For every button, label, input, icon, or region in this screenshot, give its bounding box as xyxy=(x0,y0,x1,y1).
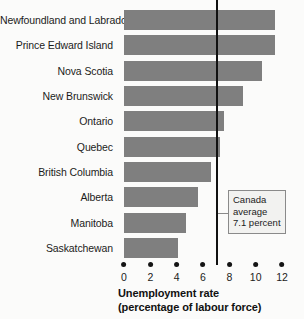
bar xyxy=(124,162,211,182)
tick-dot-icon xyxy=(253,262,258,267)
annotation-line-3: 7.1 percent xyxy=(233,217,281,229)
x-axis-tick: 4 xyxy=(174,262,180,283)
category-label: British Columbia xyxy=(0,162,118,182)
bar xyxy=(124,61,262,81)
x-axis-tick-label: 2 xyxy=(147,271,153,283)
category-label: Alberta xyxy=(0,187,118,207)
canada-average-reference-line xyxy=(216,0,218,265)
unemployment-rate-bar-chart: Newfoundland and Labrador Prince Edward … xyxy=(0,0,304,319)
bar xyxy=(124,187,198,207)
bar-row xyxy=(124,61,282,81)
x-axis-tick-label: 6 xyxy=(200,271,206,283)
bar-row xyxy=(124,86,282,106)
bar-row xyxy=(124,238,282,258)
category-label: Saskatchewan xyxy=(0,238,118,258)
tick-dot-icon xyxy=(148,262,153,267)
bar xyxy=(124,10,275,30)
category-axis-labels: Newfoundland and Labrador Prince Edward … xyxy=(0,10,118,258)
x-axis-tick: 10 xyxy=(250,262,262,283)
category-label: Quebec xyxy=(0,137,118,157)
category-label: Newfoundland and Labrador xyxy=(0,10,118,30)
category-label: Prince Edward Island xyxy=(0,35,118,55)
bar xyxy=(124,86,243,106)
tick-dot-icon xyxy=(227,262,232,267)
tick-dot-icon xyxy=(122,262,127,267)
category-label: Ontario xyxy=(0,111,118,131)
annotation-line-1: Canada xyxy=(233,194,281,206)
bar xyxy=(124,238,178,258)
category-label: New Brunswick xyxy=(0,86,118,106)
bar xyxy=(124,35,275,55)
bar-row xyxy=(124,10,282,30)
x-axis-tick: 12 xyxy=(276,262,288,283)
bar xyxy=(124,111,224,131)
category-label: Manitoba xyxy=(0,213,118,233)
x-axis-tick-label: 4 xyxy=(174,271,180,283)
annotation-line-2: average xyxy=(233,206,281,218)
tick-dot-icon xyxy=(280,262,285,267)
x-axis-tick-label: 12 xyxy=(276,271,288,283)
category-label: Nova Scotia xyxy=(0,61,118,81)
bar xyxy=(124,213,186,233)
bar-row xyxy=(124,162,282,182)
x-axis-tick-label: 10 xyxy=(250,271,262,283)
bar-row xyxy=(124,111,282,131)
bar-row xyxy=(124,35,282,55)
x-axis-tick-label: 0 xyxy=(121,271,127,283)
axis-title-line-1: Unemployment rate xyxy=(118,286,304,300)
canada-average-annotation: Canada average 7.1 percent xyxy=(228,190,286,234)
bar xyxy=(124,137,220,157)
x-axis-tick: 2 xyxy=(147,262,153,283)
x-axis-tick: 6 xyxy=(200,262,206,283)
bar-row xyxy=(124,137,282,157)
x-axis: 024681012 xyxy=(124,262,282,284)
tick-dot-icon xyxy=(174,262,179,267)
tick-dot-icon xyxy=(201,262,206,267)
x-axis-title: Unemployment rate (percentage of labour … xyxy=(118,286,304,314)
x-axis-tick: 0 xyxy=(121,262,127,283)
x-axis-tick-label: 8 xyxy=(226,271,232,283)
axis-title-line-2: (percentage of labour force) xyxy=(118,300,304,314)
x-axis-tick: 8 xyxy=(226,262,232,283)
